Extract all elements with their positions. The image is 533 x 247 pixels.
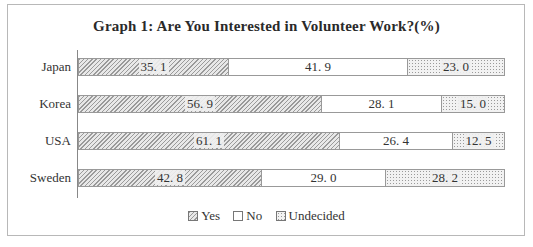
dotted-swatch-icon <box>276 211 286 221</box>
bar-value-label: 42. 8 <box>155 170 185 185</box>
bar-segment-undecided: 28. 2 <box>385 169 505 187</box>
bar-segment-undecided: 12. 5 <box>452 132 505 150</box>
chart-legend: Yes No Undecided <box>0 208 533 225</box>
bar-segment-no: 28. 1 <box>321 95 442 113</box>
bar-value-label: 28. 1 <box>367 96 397 111</box>
legend-label-yes: Yes <box>201 208 220 224</box>
legend-item-yes: Yes <box>188 208 220 224</box>
bar-value-label: 28. 2 <box>430 170 460 185</box>
bar-segment-yes: 35. 1 <box>78 58 229 76</box>
bar-value-label: 12. 5 <box>464 133 494 148</box>
bar-value-label: 29. 0 <box>309 170 339 185</box>
legend-label-undecided: Undecided <box>289 208 345 224</box>
legend-label-no: No <box>246 208 262 224</box>
bar-value-label: 15. 0 <box>458 96 488 111</box>
bar-segment-undecided: 15. 0 <box>441 95 505 113</box>
bar-value-label: 35. 1 <box>139 59 169 74</box>
legend-item-no: No <box>233 208 262 224</box>
category-label: Japan <box>5 59 71 75</box>
bar-segment-undecided: 23. 0 <box>407 58 505 76</box>
bar-segment-no: 41. 9 <box>228 58 408 76</box>
bar-segment-no: 29. 0 <box>261 169 386 187</box>
chart-title: Graph 1: Are You Interested in Volunteer… <box>0 18 533 35</box>
legend-item-undecided: Undecided <box>276 208 345 224</box>
bar-value-label: 41. 9 <box>303 59 333 74</box>
category-label: Sweden <box>5 170 71 186</box>
bar-value-label: 23. 0 <box>441 59 471 74</box>
chart-frame <box>7 4 525 236</box>
bar-value-label: 26. 4 <box>381 133 411 148</box>
bar-segment-yes: 61. 1 <box>78 132 340 150</box>
hatch-swatch-icon <box>188 211 198 221</box>
bar-segment-yes: 56. 9 <box>78 95 322 113</box>
bar-value-label: 61. 1 <box>194 133 224 148</box>
category-label: Korea <box>5 96 71 112</box>
bar-segment-no: 26. 4 <box>339 132 453 150</box>
bar-value-label: 56. 9 <box>185 96 215 111</box>
bar-segment-yes: 42. 8 <box>78 169 262 187</box>
blank-swatch-icon <box>233 211 243 221</box>
category-label: USA <box>5 133 71 149</box>
